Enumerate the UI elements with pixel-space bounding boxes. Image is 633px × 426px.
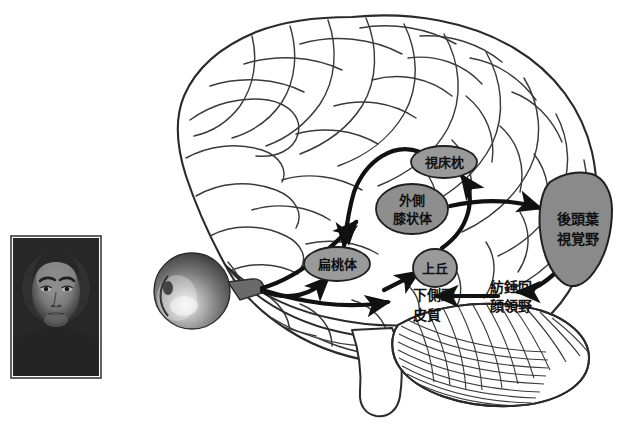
region-occipital-visual-cortex[interactable]: 後頭葉 視覚野	[539, 172, 612, 286]
region-pulvinar[interactable]: 視床枕	[411, 146, 477, 178]
region-superior-colliculus[interactable]: 上丘	[413, 249, 457, 287]
region-label-pulvinar: 視床枕	[424, 155, 464, 170]
ffa-label-line2: 顔領野	[489, 298, 532, 314]
region-label-occipital-line2: 視覚野	[556, 231, 599, 247]
region-label-amygdala: 扁桃体	[318, 257, 358, 272]
region-label-occipital-line1: 後頭葉	[557, 211, 600, 227]
it-label-line1: 下側頭	[413, 287, 456, 303]
figure-canvas: 後頭葉 視覚野 視床枕 外側 膝状体 扁桃体 上丘 下側頭 皮質 紡錘回 顔領野	[0, 0, 633, 426]
face-photograph	[11, 236, 101, 378]
ffa-label-line1: 紡錘回	[490, 279, 532, 295]
region-amygdala[interactable]: 扁桃体	[304, 247, 370, 281]
region-label-superior-colliculus: 上丘	[422, 261, 448, 276]
it-label-line2: 皮質	[412, 307, 441, 323]
region-lateral-geniculate[interactable]: 外側 膝状体	[376, 184, 448, 234]
region-label-lgn-line1: 外側	[398, 193, 425, 208]
region-label-lgn-line2: 膝状体	[392, 211, 433, 226]
